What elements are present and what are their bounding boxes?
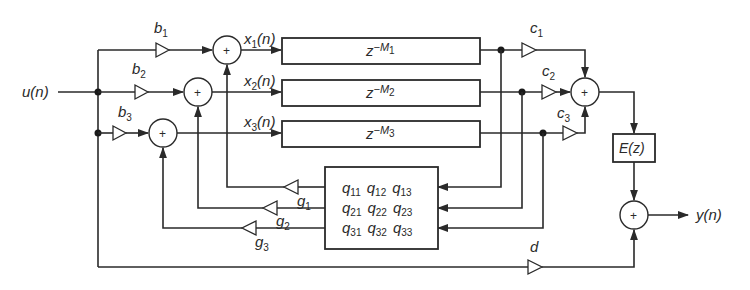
gain-d-triangle xyxy=(528,260,542,274)
svg-text:g1: g1 xyxy=(297,192,311,212)
state-x1-label: x1(n) xyxy=(243,30,275,50)
output-label: y(n) xyxy=(695,206,722,223)
input-label: u(n) xyxy=(22,83,49,100)
state-x2-label: x2(n) xyxy=(243,72,275,92)
gain-c1: c1 xyxy=(522,19,585,77)
filter-label: E(z) xyxy=(619,140,645,156)
plus-icon: + xyxy=(223,44,230,58)
svg-text:c1: c1 xyxy=(530,19,544,39)
state-x3-label: x3(n) xyxy=(243,113,275,133)
delay-line-3: z−M3 xyxy=(282,121,480,147)
gain-b3-triangle xyxy=(113,126,126,140)
gain-b2-label: b2 xyxy=(132,60,146,80)
row-2-input: b2 + x2(n) xyxy=(98,60,281,106)
gain-d-label: d xyxy=(530,238,539,255)
plus-icon: + xyxy=(194,86,201,100)
svg-text:c2: c2 xyxy=(542,62,556,82)
delay-line-1: z−M1 xyxy=(282,38,480,64)
feedback-matrix: q11q12q13 q21q22q23 q31q32q33 xyxy=(325,167,438,249)
gain-b1-triangle xyxy=(156,43,169,57)
svg-text:c3: c3 xyxy=(557,104,571,124)
row-1-input: b1 + x1(n) xyxy=(98,19,281,64)
delay-line-2: z−M2 xyxy=(282,80,480,106)
svg-text:g2: g2 xyxy=(276,212,290,232)
feedback-tap-1 xyxy=(438,50,501,187)
input-signal: u(n) xyxy=(22,83,98,100)
row-3-input: b3 + x3(n) xyxy=(98,103,281,147)
svg-text:g3: g3 xyxy=(255,233,269,253)
fdn-block-diagram: u(n) b1 + x1(n) b2 + x2(n) b3 + x3(n) xyxy=(0,0,750,290)
filter-E-block: E(z) xyxy=(613,134,655,162)
gain-c3: c3 xyxy=(557,104,585,140)
gain-b3-label: b3 xyxy=(118,103,132,123)
plus-icon: + xyxy=(159,127,166,141)
gain-b2-triangle xyxy=(135,85,148,99)
plus-icon: + xyxy=(630,209,637,223)
gain-b1-label: b1 xyxy=(154,19,168,39)
plus-icon: + xyxy=(581,86,588,100)
feedback-tap-2 xyxy=(438,92,522,208)
gain-c2: c2 xyxy=(542,62,570,99)
